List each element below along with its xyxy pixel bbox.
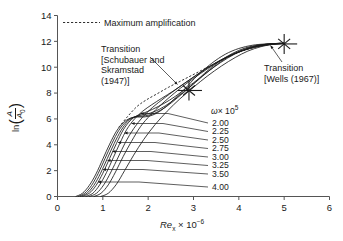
annotation-line: [Schubauer and bbox=[101, 55, 165, 66]
legend-label-maximum-amplification: Maximum amplification bbox=[104, 18, 196, 28]
x-tick-label: 5 bbox=[282, 202, 287, 213]
figure-container: 012345602468101214 Maximum amplification… bbox=[0, 0, 343, 241]
omega-group-header: ω× 105 bbox=[211, 104, 238, 116]
y-axis-denominator: A0 bbox=[16, 108, 27, 119]
omega-leader-4 bbox=[113, 150, 209, 157]
omega-value-label: 3.50 bbox=[212, 169, 229, 179]
x-axis-symbol: Re bbox=[160, 219, 172, 230]
chart-plot: 012345602468101214 bbox=[0, 0, 343, 241]
y-axis-label: ln(AA0) bbox=[6, 103, 27, 132]
omega-leader-1 bbox=[132, 122, 209, 131]
annotation-line: Skramstad bbox=[101, 65, 165, 76]
omega-leader-7 bbox=[98, 181, 208, 187]
x-tick-label: 2 bbox=[146, 202, 151, 213]
omega-leader-6 bbox=[103, 168, 208, 174]
y-tick-label: 14 bbox=[41, 10, 52, 21]
y-tick-label: 6 bbox=[46, 113, 51, 124]
x-axis-times: × 10 bbox=[175, 219, 196, 230]
y-axis-denominator-symbol: A bbox=[15, 113, 24, 118]
y-tick-label: 2 bbox=[46, 165, 51, 176]
annotation-line: [Wells (1967)] bbox=[264, 74, 319, 85]
marker-transition-wells bbox=[273, 34, 297, 54]
y-axis-close-paren: ) bbox=[7, 103, 24, 108]
x-tick-label: 0 bbox=[55, 202, 60, 213]
y-tick-label: 0 bbox=[46, 191, 51, 202]
omega-value-label: 4.00 bbox=[212, 182, 229, 192]
y-axis-denominator-subscript: 0 bbox=[18, 109, 25, 113]
annotation-line: Transition bbox=[101, 44, 165, 55]
x-axis-exponent: −6 bbox=[197, 218, 204, 225]
x-tick-label: 6 bbox=[327, 202, 332, 213]
x-tick-label: 3 bbox=[191, 202, 196, 213]
y-axis-fraction: AA0 bbox=[6, 108, 27, 119]
y-axis-prefix: ln bbox=[10, 125, 21, 132]
y-axis-open-paren: ( bbox=[7, 119, 24, 124]
omega-leader-5 bbox=[108, 159, 209, 165]
leader-arrow-wells bbox=[271, 46, 283, 63]
annotation-line: (1947)] bbox=[101, 76, 165, 87]
annotation-line: Transition bbox=[264, 63, 319, 74]
x-tick-label: 1 bbox=[100, 202, 105, 213]
x-tick-label: 4 bbox=[236, 202, 241, 213]
x-axis-label: Rex × 10−6 bbox=[160, 218, 204, 232]
omega-leader-0 bbox=[141, 112, 209, 123]
omega-leader-2 bbox=[125, 132, 209, 140]
y-tick-label: 12 bbox=[41, 36, 52, 47]
annotation-transition-schubauer: Transition [Schubauer and Skramstad (194… bbox=[101, 44, 165, 86]
y-tick-label: 10 bbox=[41, 62, 52, 73]
y-tick-label: 8 bbox=[46, 87, 51, 98]
omega-exponent: 5 bbox=[235, 104, 239, 111]
omega-times: × 10 bbox=[218, 106, 235, 116]
omega-symbol: ω bbox=[211, 106, 218, 116]
annotation-transition-wells: Transition [Wells (1967)] bbox=[264, 63, 319, 84]
y-tick-label: 4 bbox=[46, 139, 51, 150]
